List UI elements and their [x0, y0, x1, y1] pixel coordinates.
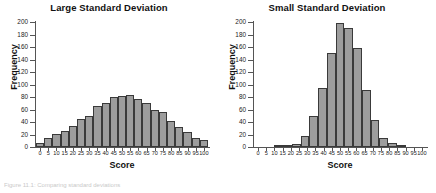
y-axis-tick-label: 40: [218, 119, 246, 125]
histogram-bar: [159, 112, 167, 147]
histogram-bar: [318, 88, 327, 147]
y-axis-tick: [248, 47, 253, 48]
histogram-bar: [397, 145, 406, 147]
y-axis-tick-label-wrap: 40: [0, 119, 28, 120]
y-axis-tick: [248, 122, 253, 123]
histogram-bar: [274, 145, 283, 147]
y-axis-tick: [248, 35, 253, 36]
histogram-bar: [93, 106, 101, 147]
histogram-bar: [151, 110, 159, 148]
y-axis-tick-label-wrap: 20: [0, 132, 28, 133]
histogram-bar: [61, 131, 69, 147]
histogram-bar: [327, 53, 336, 147]
y-axis-tick: [30, 85, 35, 86]
plot-area-right: [254, 22, 426, 147]
chart-title-large-sd: Large Standard Deviation: [0, 2, 218, 13]
histogram-panel-large-sd: Large Standard Deviation 020406080100120…: [0, 0, 218, 178]
x-axis-tick-label: 100: [197, 151, 211, 157]
figure-caption: Figure 11.1: Comparing standard deviatio…: [4, 182, 424, 191]
y-axis-tick: [30, 110, 35, 111]
histogram-bar: [192, 138, 200, 147]
histogram-panel-small-sd: Small Standard Deviation 020406080100120…: [218, 0, 436, 178]
histogram-bar: [344, 28, 353, 147]
histogram-bar: [200, 140, 208, 148]
histogram-bar: [379, 138, 388, 147]
y-axis-tick: [30, 60, 35, 61]
y-axis-tick: [248, 72, 253, 73]
y-axis-tick: [30, 147, 35, 148]
histogram-bar: [353, 48, 362, 147]
y-axis-tick: [30, 72, 35, 73]
histogram-bar: [292, 144, 301, 147]
bar-series-large-sd: [36, 22, 208, 147]
histogram-bar: [110, 97, 118, 147]
y-axis-tick: [30, 35, 35, 36]
y-axis-tick: [248, 147, 253, 148]
histogram-bar: [371, 120, 380, 148]
histogram-bar: [134, 99, 142, 147]
histogram-bar: [362, 90, 371, 148]
x-axis-title-left: Score: [36, 160, 208, 170]
histogram-bar: [126, 95, 134, 147]
histogram-bar: [36, 143, 44, 147]
histogram-bar: [301, 136, 310, 147]
y-axis-title-left: Frequency: [9, 17, 19, 117]
y-axis-tick: [248, 60, 253, 61]
y-axis-tick-label: 0: [218, 144, 246, 150]
y-axis-tick: [248, 135, 253, 136]
y-axis-tick: [30, 122, 35, 123]
y-axis-tick-label: 0: [0, 144, 28, 150]
x-axis-title-right: Score: [254, 160, 426, 170]
bar-series-small-sd: [254, 22, 426, 147]
histogram-bar: [283, 145, 292, 147]
chart-title-small-sd: Small Standard Deviation: [218, 2, 436, 13]
y-axis-tick-label-wrap: 0: [218, 144, 246, 145]
y-axis-tick-label-wrap: 20: [218, 132, 246, 133]
y-axis-tick-label-wrap: 40: [218, 119, 246, 120]
figure-two-histograms: Large Standard Deviation 020406080100120…: [0, 0, 436, 193]
y-axis-tick-label: 20: [0, 132, 28, 138]
histogram-bar: [118, 96, 126, 147]
histogram-bar: [69, 126, 77, 147]
histogram-bar: [77, 119, 85, 147]
histogram-bar: [309, 116, 318, 147]
y-axis-tick: [248, 97, 253, 98]
histogram-bar: [388, 143, 397, 147]
histogram-bar: [183, 132, 191, 147]
panel-container: Large Standard Deviation 020406080100120…: [0, 0, 436, 178]
histogram-bar: [102, 103, 110, 147]
histogram-bar: [142, 103, 150, 147]
y-axis-tick-label: 40: [0, 119, 28, 125]
y-axis-tick: [248, 110, 253, 111]
histogram-bar: [336, 23, 345, 147]
histogram-bar: [85, 116, 93, 147]
histogram-bar: [44, 138, 52, 147]
y-axis-tick: [30, 22, 35, 23]
y-axis-tick: [248, 22, 253, 23]
y-axis-tick-label-wrap: 0: [0, 144, 28, 145]
y-axis-title-right: Frequency: [227, 17, 237, 117]
histogram-bar: [175, 127, 183, 147]
y-axis-tick: [30, 47, 35, 48]
plot-area-left: [36, 22, 208, 147]
histogram-bar: [167, 121, 175, 147]
x-axis-tick-label: 100: [415, 151, 429, 157]
histogram-bar: [52, 134, 60, 147]
y-axis-tick-label: 20: [218, 132, 246, 138]
y-axis-tick: [248, 85, 253, 86]
y-axis-tick: [30, 135, 35, 136]
y-axis-tick: [30, 97, 35, 98]
